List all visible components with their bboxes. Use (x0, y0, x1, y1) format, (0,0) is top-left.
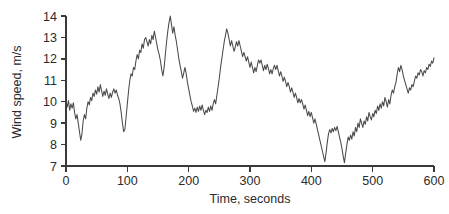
x-tick-label: 300 (240, 174, 261, 188)
y-tick-label: 8 (50, 138, 57, 152)
y-axis-title: Wind speed, m/s (10, 45, 24, 138)
wind-speed-line-chart: Wind speed, m/s 7891011121314 0100200300… (0, 0, 449, 214)
x-axis-tick-labels: 0100200300400500600 (63, 174, 445, 188)
x-axis-title: Time, seconds (210, 192, 291, 206)
x-tick-label: 100 (117, 174, 138, 188)
y-tick-label: 13 (43, 31, 57, 45)
y-axis-tick-marks (61, 16, 66, 166)
x-tick-label: 400 (301, 174, 322, 188)
x-tick-label: 600 (424, 174, 445, 188)
y-tick-label: 11 (44, 74, 57, 88)
x-tick-label: 0 (63, 174, 70, 188)
y-tick-label: 14 (43, 10, 57, 24)
y-tick-label: 12 (43, 52, 57, 66)
x-axis-tick-marks (66, 166, 434, 172)
y-tick-label: 10 (43, 95, 57, 109)
y-tick-label: 7 (50, 160, 57, 174)
x-tick-label: 500 (362, 174, 383, 188)
wind-speed-chart-figure: Wind speed, m/s 7891011121314 0100200300… (0, 0, 449, 214)
x-tick-label: 200 (178, 174, 199, 188)
y-axis-tick-labels: 7891011121314 (43, 10, 57, 174)
y-tick-label: 9 (50, 117, 57, 131)
wind-speed-series-line (66, 16, 434, 163)
